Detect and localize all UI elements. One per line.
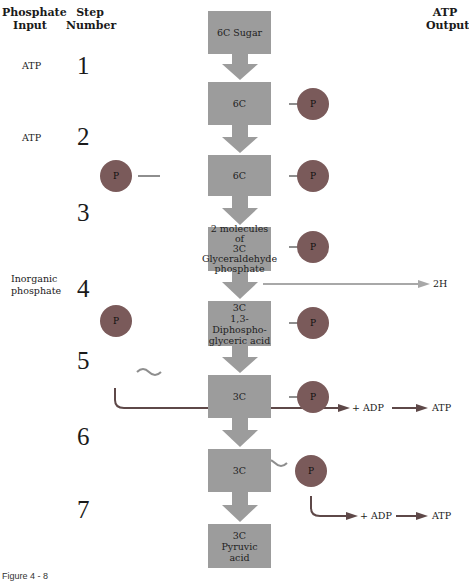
phosphate-circle-step3: P xyxy=(297,231,329,263)
phosphate-circle-step1: P xyxy=(297,88,329,120)
box-6c-step2: 6C xyxy=(208,155,271,196)
phosphate-label: P xyxy=(310,99,316,109)
box-label-line: glyceric acid xyxy=(209,335,270,346)
phosphate-label: P xyxy=(308,466,314,476)
figure-caption: Figure 4 - 8 xyxy=(2,571,48,581)
box-label: 6C xyxy=(233,170,246,182)
phosphate-circle-step2-left: P xyxy=(100,160,132,192)
phosphate-label: P xyxy=(310,318,316,328)
box-label-line: 1,3-Diphospho- xyxy=(208,313,271,335)
box-label-line: Pyruvic xyxy=(221,541,257,552)
box-label-line: 3C xyxy=(233,530,246,541)
box-label-line: 3C xyxy=(233,302,246,313)
box-label: 6C xyxy=(233,98,246,110)
phosphate-label: P xyxy=(310,242,316,252)
phosphate-circle-inorganic: P xyxy=(100,305,132,337)
phosphate-circle-step6: P xyxy=(295,455,327,487)
box-pyruvic-acid: 3C Pyruvic acid xyxy=(208,524,271,568)
phosphate-circle-step5: P xyxy=(297,381,329,413)
output-adp-step7: + ADP xyxy=(360,510,392,522)
phosphate-label: P xyxy=(310,392,316,402)
phosphate-circle-step4-right: P xyxy=(297,307,329,339)
box-6c-step1: 6C xyxy=(208,82,271,125)
output-atp-step7: ATP xyxy=(432,510,451,522)
box-label: 6C Sugar xyxy=(217,27,262,39)
box-label: 3C xyxy=(233,465,246,477)
tilde-bond-step4 xyxy=(137,369,161,375)
box-label-line: phosphate xyxy=(214,264,264,274)
output-2h: 2H xyxy=(433,278,447,290)
box-label-line: acid xyxy=(229,552,249,563)
bond-dash xyxy=(138,175,160,177)
phosphate-label: P xyxy=(113,316,119,326)
box-diphosphoglyceric-acid: 3C 1,3-Diphospho- glyceric acid xyxy=(208,301,271,346)
box-glyceraldehyde-phosphate: 2 molecules of 3C Glyceraldehyde phospha… xyxy=(208,227,271,271)
box-3c-step5: 3C xyxy=(208,375,271,418)
box-3c-step6: 3C xyxy=(208,449,271,492)
phosphate-label: P xyxy=(310,171,316,181)
box-6c-sugar: 6C Sugar xyxy=(208,11,271,54)
hydrogen-arrow xyxy=(263,280,430,288)
box-label-line: 2 molecules of xyxy=(208,224,271,244)
output-atp-step5: ATP xyxy=(432,402,451,414)
phosphate-label: P xyxy=(113,171,119,181)
box-label: 3C xyxy=(233,391,246,403)
output-adp-step5: + ADP xyxy=(352,402,384,414)
phosphate-circle-step2-right: P xyxy=(297,160,329,192)
